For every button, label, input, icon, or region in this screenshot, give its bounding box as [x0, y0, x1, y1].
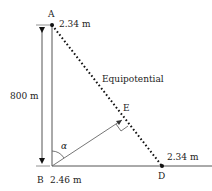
point-e-label: E [123, 103, 130, 113]
right-angle-marker [116, 124, 128, 131]
arrowhead-e [116, 120, 122, 125]
point-a-label: A [47, 9, 55, 19]
point-d-dot [160, 164, 164, 168]
point-a-value: 2.34 m [59, 19, 91, 29]
height-label: 800 m [10, 91, 39, 101]
point-b-value: 2.46 m [50, 175, 82, 185]
equipotential-label: Equipotential [102, 74, 164, 84]
angle-alpha-label: α [61, 141, 67, 151]
point-a-dot [50, 23, 54, 27]
equipotential-line [52, 25, 162, 166]
point-d-label: D [158, 171, 165, 181]
angle-alpha-arc [52, 151, 64, 158]
point-b-label: B [37, 175, 44, 185]
point-d-value: 2.34 m [167, 152, 199, 162]
flow-net-diagram: A 2.34 m 800 m Equipotential E α B 2.46 … [0, 0, 212, 191]
